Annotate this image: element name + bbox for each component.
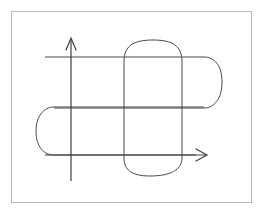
upper-horizontal-right-cap — [204, 57, 222, 108]
vertical-stadium-top-cap — [124, 40, 182, 62]
figure-canvas — [0, 0, 265, 216]
lower-horizontal-left-cap — [36, 107, 54, 155]
diagram-svg — [0, 0, 265, 216]
vertical-stadium-bottom-cap — [124, 158, 182, 176]
